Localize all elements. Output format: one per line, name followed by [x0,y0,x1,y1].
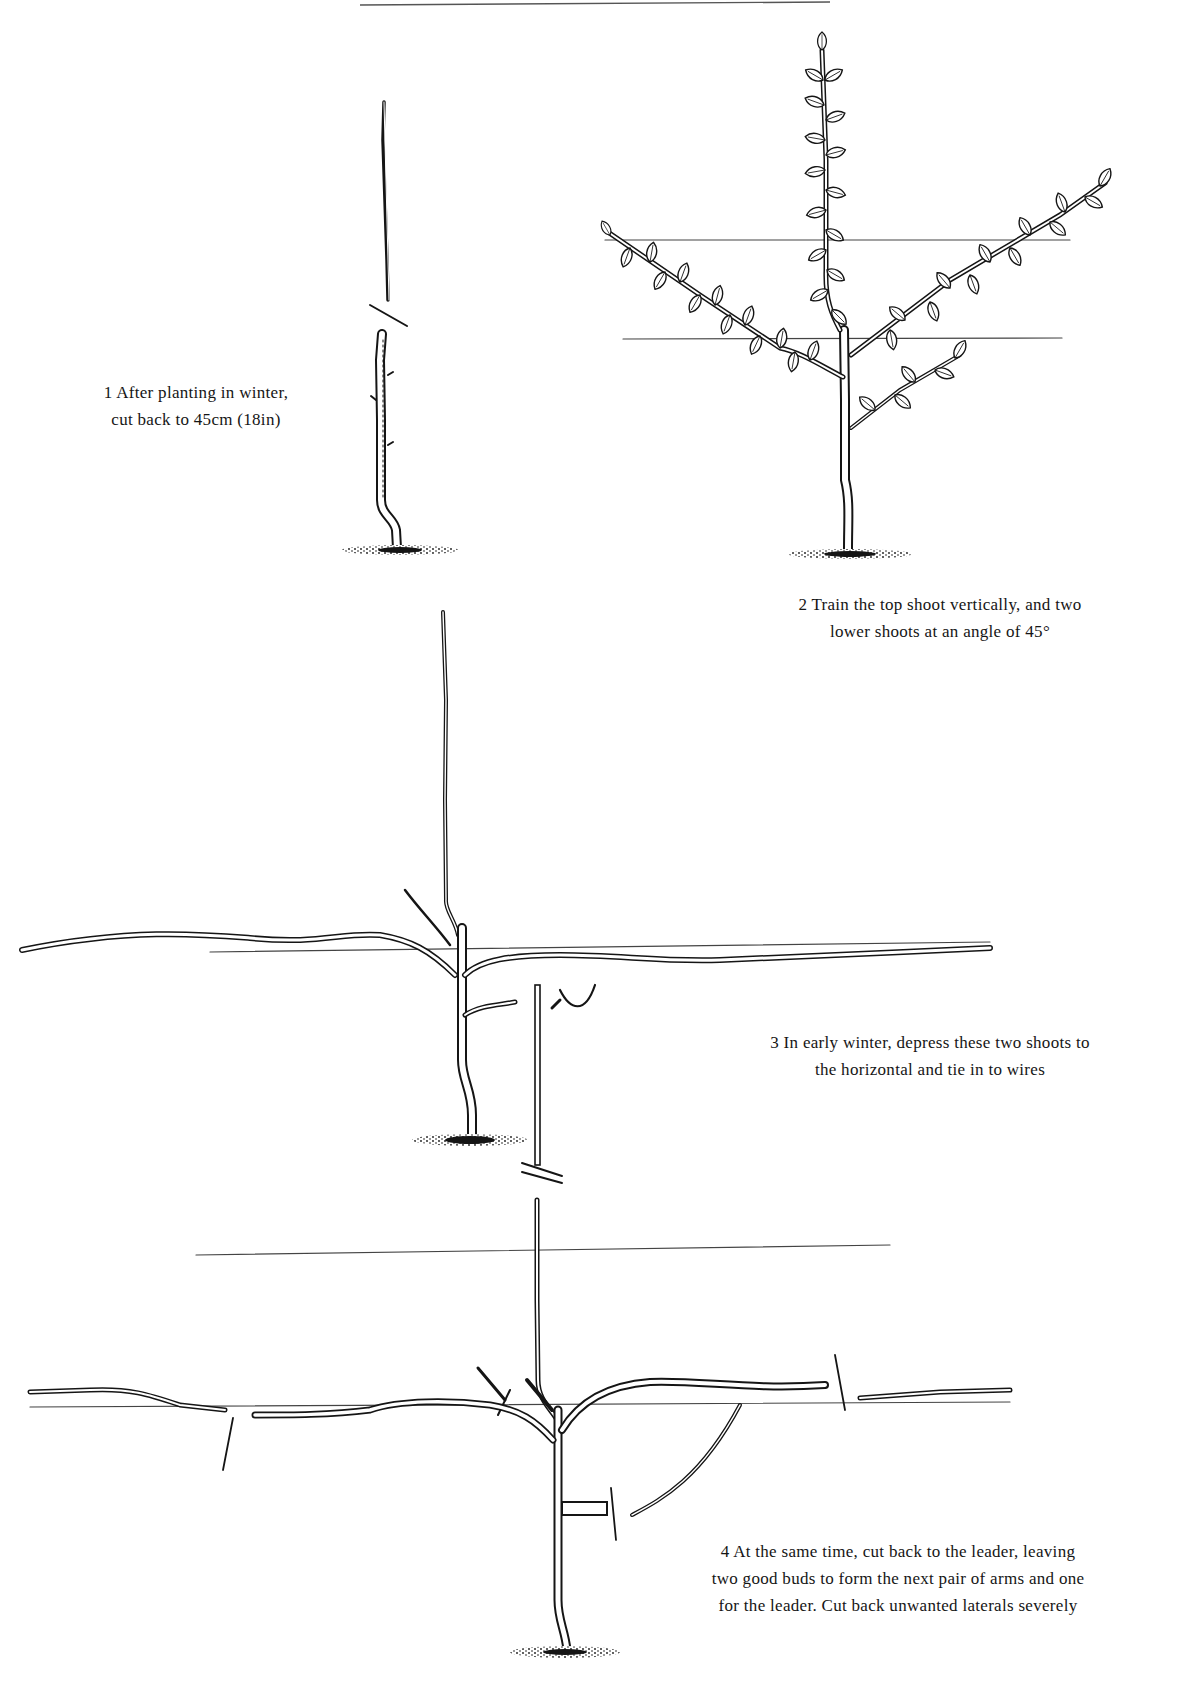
caption-line: for the leader. Cut back unwanted latera… [648,1592,1148,1619]
caption-line: 2 Train the top shoot vertically, and tw… [740,591,1140,618]
caption-line: 4 At the same time, cut back to the lead… [648,1538,1148,1565]
step-2-caption: 2 Train the top shoot vertically, and tw… [740,591,1140,645]
figure-3-horizontal-arms [22,612,990,1183]
caption-line: the horizontal and tie in to wires [700,1056,1160,1083]
caption-line: cut back to 45cm (18in) [62,406,330,433]
caption-line: lower shoots at an angle of 45° [740,618,1140,645]
caption-line: 1 After planting in winter, [62,379,330,406]
cut-mark [223,1418,233,1470]
step-1-caption: 1 After planting in winter, cut back to … [62,379,330,433]
cut-mark [370,305,407,326]
cut-mark [611,1488,616,1540]
top-rule [360,2,830,5]
caption-line: 3 In early winter, depress these two sho… [700,1029,1160,1056]
step-4-caption: 4 At the same time, cut back to the lead… [648,1538,1148,1619]
figure-1-whip [342,102,458,555]
cut-mark [835,1355,845,1410]
wire-upper [196,1245,890,1255]
caption-line: two good buds to form the next pair of a… [648,1565,1148,1592]
support-cane [535,985,540,1165]
figure-2-leafy-tree [599,32,1115,559]
espalier-training-diagram [0,0,1201,1692]
step-3-caption: 3 In early winter, depress these two sho… [700,1029,1160,1083]
